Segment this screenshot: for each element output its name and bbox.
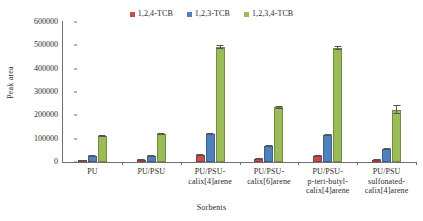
- bar-slot: [98, 22, 107, 162]
- x-axis-tick-mark: [240, 162, 241, 165]
- error-bar: [324, 134, 331, 136]
- bar[interactable]: [88, 156, 97, 162]
- x-axis-category-label: PU/PSUsulfonated-calix[4]arene: [351, 167, 422, 196]
- error-bar: [383, 148, 390, 150]
- legend-entry: 1,2,4-TCB: [130, 10, 173, 18]
- bar[interactable]: [323, 135, 332, 162]
- legend-entry: 1,2,3,4-TCB: [244, 10, 293, 18]
- y-axis-tick-label: 100000: [14, 135, 58, 143]
- error-bar: [99, 135, 106, 137]
- x-axis-tick-mark: [298, 162, 299, 165]
- bar-group-bars: [240, 22, 299, 162]
- bar[interactable]: [147, 156, 156, 162]
- bar-slot: [206, 22, 215, 162]
- legend-label: 1,2,3,4-TCB: [252, 10, 293, 18]
- y-axis-tick-label: 0: [14, 158, 58, 166]
- y-axis-tick-label: 400000: [14, 65, 58, 73]
- legend-swatch-icon: [187, 12, 192, 17]
- bar-slot: [274, 22, 283, 162]
- error-bar: [275, 106, 282, 109]
- x-axis-tick-mark: [357, 162, 358, 165]
- error-bar: [89, 155, 96, 156]
- bar[interactable]: [216, 47, 225, 162]
- x-axis-tick-mark: [416, 162, 417, 165]
- x-axis-category-labels: PUPU/PSUPU/PSU-calix[4]arenePU/PSU-calix…: [63, 167, 416, 207]
- bar-slot: [392, 22, 401, 162]
- bar-slot: [264, 22, 273, 162]
- bar-group: [240, 22, 299, 162]
- bar-group: [63, 22, 122, 162]
- bar-group: [357, 22, 416, 162]
- x-axis-title: Sorbents: [0, 203, 423, 212]
- bar-slot: [196, 22, 205, 162]
- legend-label: 1,2,3-TCB: [195, 10, 230, 18]
- error-bar: [197, 154, 204, 155]
- error-bar: [393, 105, 400, 113]
- error-bar: [334, 46, 341, 51]
- bar-group: [181, 22, 240, 162]
- error-bar: [217, 45, 224, 49]
- bar[interactable]: [313, 156, 322, 162]
- y-axis-tick-label: 200000: [14, 111, 58, 119]
- error-bar: [79, 160, 86, 161]
- bar-group: [122, 22, 181, 162]
- legend-swatch-icon: [244, 12, 249, 17]
- error-bar: [158, 133, 165, 135]
- bar-group-bars: [122, 22, 181, 162]
- bar-slot: [254, 22, 263, 162]
- bar-slot: [382, 22, 391, 162]
- x-axis-category-label-line: PU/PSU: [351, 167, 422, 177]
- bar[interactable]: [254, 159, 263, 163]
- y-axis-tick-label: 600000: [14, 18, 58, 26]
- bar[interactable]: [274, 107, 283, 162]
- y-axis-tick-labels: 0100000200000300000400000500000600000: [14, 0, 58, 221]
- legend-entry: 1,2,3-TCB: [187, 10, 230, 18]
- bar-group: [298, 22, 357, 162]
- bar[interactable]: [382, 149, 391, 162]
- error-bar: [373, 159, 380, 160]
- bar-slot: [216, 22, 225, 162]
- bar-group-bars: [357, 22, 416, 162]
- bar-slot: [137, 22, 146, 162]
- bar[interactable]: [206, 134, 215, 162]
- plot-area: [63, 22, 416, 162]
- bar-slot: [372, 22, 381, 162]
- error-bar: [314, 155, 321, 156]
- x-axis-category-label-line: calix[4]arene: [351, 186, 422, 196]
- bar[interactable]: [157, 134, 166, 162]
- legend-label: 1,2,4-TCB: [138, 10, 173, 18]
- bar[interactable]: [98, 136, 107, 162]
- chart-legend: 1,2,4-TCB1,2,3-TCB1,2,3,4-TCB: [0, 10, 423, 18]
- bar-slot: [157, 22, 166, 162]
- bar-slot: [323, 22, 332, 162]
- bar-slot: [147, 22, 156, 162]
- bar-slot: [88, 22, 97, 162]
- y-axis-tick-label: 500000: [14, 41, 58, 49]
- bar[interactable]: [264, 146, 273, 162]
- bar[interactable]: [333, 48, 342, 162]
- x-axis-tick-mark: [181, 162, 182, 165]
- error-bar: [138, 159, 145, 160]
- error-bar: [255, 158, 262, 159]
- bar[interactable]: [196, 155, 205, 162]
- error-bar: [265, 145, 272, 147]
- x-axis-tick-mark: [122, 162, 123, 165]
- bar-slot: [78, 22, 87, 162]
- legend-swatch-icon: [130, 12, 135, 17]
- bar-group-bars: [181, 22, 240, 162]
- error-bar: [148, 155, 155, 157]
- error-bar: [207, 133, 214, 135]
- bar-slot: [313, 22, 322, 162]
- bar-group-bars: [63, 22, 122, 162]
- bar-chart: 1,2,4-TCB1,2,3-TCB1,2,3,4-TCB Peak area …: [0, 0, 423, 221]
- y-axis-tick-label: 300000: [14, 88, 58, 96]
- bar-slot: [333, 22, 342, 162]
- bar[interactable]: [392, 110, 401, 163]
- x-axis-category-label-line: sulfonated-: [351, 177, 422, 187]
- bar-group-bars: [298, 22, 357, 162]
